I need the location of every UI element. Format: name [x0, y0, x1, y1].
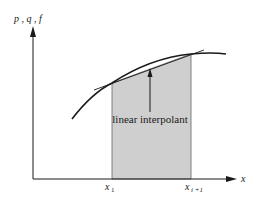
svg-text:i +1: i +1	[191, 186, 203, 194]
svg-text:1: 1	[111, 186, 115, 194]
annotation-label: linear interpolant	[112, 113, 187, 125]
svg-text:x: x	[104, 181, 110, 192]
x-tick-label-xi1: x i +1	[184, 181, 203, 194]
x-tick-label-x1: x 1	[104, 181, 115, 194]
interpolation-diagram: linear interpolant p , q , f x x 1 x i +…	[0, 0, 277, 204]
y-axis-label: p , q , f	[13, 13, 43, 24]
x-axis-arrow-icon	[226, 176, 237, 182]
y-axis-arrow-icon	[30, 26, 36, 37]
x-axis-label: x	[240, 173, 246, 184]
svg-text:x: x	[184, 181, 190, 192]
